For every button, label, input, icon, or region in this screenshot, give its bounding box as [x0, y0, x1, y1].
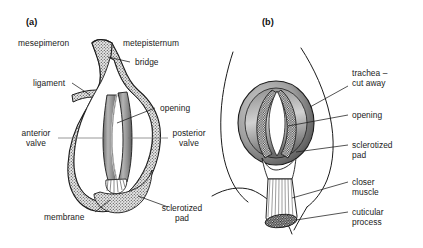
leader-trachea: [310, 86, 348, 107]
label-opening-a: opening: [160, 103, 190, 113]
label-ligament: ligament: [33, 78, 65, 88]
panel-a-id: (a): [26, 17, 37, 27]
label-cuticular-process: cuticular process: [352, 207, 384, 227]
label-mesepimeron: mesepimeron: [18, 38, 69, 48]
label-metepisternum: metepisternum: [123, 38, 179, 48]
label-sclerotized-pad-b: sclerotized pad: [352, 140, 393, 160]
label-closer-muscle: closer muscle: [352, 177, 379, 197]
label-sclerotized-pad-a: sclerotized pad: [155, 203, 209, 223]
label-posterior-valve: posterior valve: [166, 128, 212, 148]
panel-b-id: (b): [262, 17, 274, 27]
label-trachea-cut-away: trachea – cut away: [352, 68, 387, 88]
panel-b-drawing: [212, 48, 348, 234]
label-membrane: membrane: [44, 212, 84, 222]
label-anterior-valve: anterior valve: [14, 128, 58, 148]
label-opening-b: opening: [352, 110, 382, 120]
label-bridge: bridge: [135, 57, 159, 67]
leader-closer-muscle: [292, 182, 348, 198]
